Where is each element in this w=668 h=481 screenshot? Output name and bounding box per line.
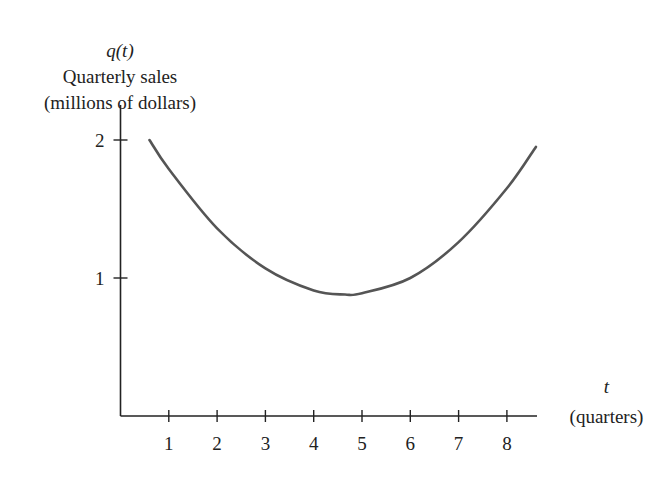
sales-curve <box>149 140 535 295</box>
x-tick-label: 4 <box>309 433 319 454</box>
x-tick-label: 6 <box>406 433 416 454</box>
x-tick-label: 3 <box>261 433 271 454</box>
ticks: 1234567812 <box>95 130 512 454</box>
x-tick-label: 8 <box>502 433 512 454</box>
y-tick-label: 2 <box>95 130 105 151</box>
x-tick-label: 2 <box>212 433 222 454</box>
y-tick-label: 1 <box>95 268 105 289</box>
x-tick-label: 5 <box>357 433 367 454</box>
axes <box>121 105 538 416</box>
x-tick-label: 7 <box>454 433 464 454</box>
chart-plot: 1234567812 <box>0 0 668 481</box>
x-tick-label: 1 <box>164 433 174 454</box>
